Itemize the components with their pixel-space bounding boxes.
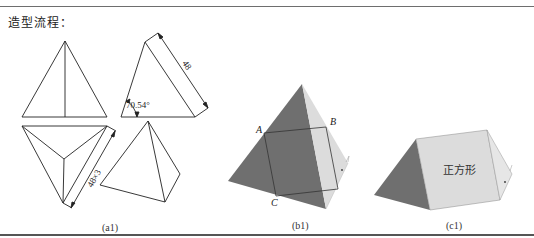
caption-b1: (b1) [292, 220, 309, 232]
caption-c1: (c1) [446, 220, 462, 232]
diagram-canvas: 48 70.54° 48×3 (a1) A B C (b1) [0, 0, 534, 238]
point-label-a: A [255, 124, 263, 135]
point-label-c: C [271, 197, 278, 208]
square-face-label: 正方形 [443, 163, 476, 177]
top-view-triangle [22, 126, 116, 208]
front-view-triangle [22, 41, 107, 117]
angle-label: 70.54° [126, 100, 150, 110]
shaded-pyramid [228, 84, 349, 209]
bottom-rule [0, 234, 534, 236]
point-label-b: B [330, 116, 336, 127]
caption-a1: (a1) [102, 222, 118, 234]
isometric-pyramid-outline [100, 121, 180, 202]
top-dimension-label: 48×3 [85, 167, 103, 189]
